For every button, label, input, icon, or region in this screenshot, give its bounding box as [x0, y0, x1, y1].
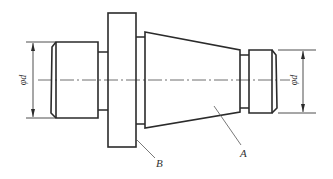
shaft-drawing: φd φd B A — [0, 0, 333, 179]
arrow-up-icon — [301, 51, 305, 59]
flange-step — [136, 37, 145, 124]
left-diameter-label: φd — [17, 74, 28, 86]
right-diameter-dimension: φd — [278, 50, 316, 113]
left-neck — [98, 52, 108, 110]
arrow-up-icon — [31, 43, 35, 51]
arrow-down-icon — [301, 104, 305, 112]
right-diameter-label: φd — [288, 74, 299, 86]
right-journal — [249, 50, 277, 113]
leader-b — [136, 139, 155, 158]
arrow-down-icon — [31, 109, 35, 117]
label-b: B — [156, 157, 163, 169]
right-neck — [240, 55, 249, 108]
label-a: A — [239, 147, 247, 159]
